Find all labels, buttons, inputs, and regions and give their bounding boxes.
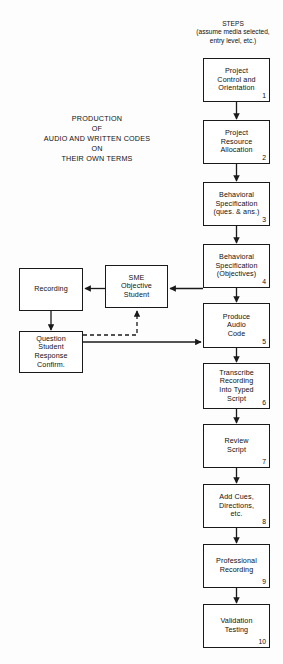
node-label-step-4: Behavioral Specification (Objectives) bbox=[213, 253, 259, 279]
node-step-1: Project Control and Orientation1 bbox=[203, 58, 270, 102]
node-number-step-6: 6 bbox=[262, 399, 266, 407]
node-label-question-student: Question Student Response Confirm. bbox=[32, 335, 69, 369]
node-label-step-6: Transcribe Recording Into Typed Script bbox=[217, 369, 256, 403]
node-number-step-9: 9 bbox=[262, 578, 266, 586]
node-number-step-8: 8 bbox=[262, 518, 266, 526]
node-number-step-2: 2 bbox=[262, 154, 266, 162]
node-step-5: Produce Audio Code5 bbox=[203, 303, 270, 348]
node-step-8: Add Cues, Directions, etc.8 bbox=[203, 484, 270, 528]
connector-question-to-sme-dashed bbox=[83, 311, 137, 335]
node-label-sme: SME Objective Student bbox=[119, 274, 154, 300]
node-step-10: Validation Testing10 bbox=[203, 604, 270, 648]
node-step-6: Transcribe Recording Into Typed Script6 bbox=[203, 363, 270, 409]
node-recording: Recording bbox=[19, 268, 83, 311]
node-step-9: Professional Recording9 bbox=[203, 544, 270, 588]
node-label-step-10: Validation Testing bbox=[218, 617, 254, 634]
node-number-step-10: 10 bbox=[258, 638, 266, 646]
flowchart-page: STEPS (assume media selected, entry leve… bbox=[0, 0, 283, 664]
steps-heading: STEPS (assume media selected, entry leve… bbox=[183, 20, 283, 45]
node-label-step-7: Review Script bbox=[222, 437, 250, 454]
node-label-step-2: Project Resource Allocation bbox=[218, 129, 254, 155]
node-number-step-4: 4 bbox=[262, 278, 266, 286]
node-label-step-1: Project Control and Orientation bbox=[215, 67, 257, 93]
node-step-7: Review Script7 bbox=[203, 424, 270, 468]
node-step-3: Behavioral Specification (ques. & ans.)3 bbox=[203, 182, 270, 226]
node-step-2: Project Resource Allocation2 bbox=[203, 120, 270, 164]
node-label-step-8: Add Cues, Directions, etc. bbox=[217, 493, 256, 519]
node-number-step-7: 7 bbox=[262, 458, 266, 466]
node-number-step-3: 3 bbox=[262, 216, 266, 224]
node-number-step-5: 5 bbox=[262, 338, 266, 346]
node-label-recording: Recording bbox=[32, 285, 70, 294]
node-label-step-3: Behavioral Specification (ques. & ans.) bbox=[211, 191, 261, 217]
node-question-student: Question Student Response Confirm. bbox=[19, 331, 83, 373]
node-label-step-5: Produce Audio Code bbox=[221, 313, 252, 339]
node-number-step-1: 1 bbox=[262, 92, 266, 100]
node-label-step-9: Professional Recording bbox=[214, 557, 259, 574]
node-step-4: Behavioral Specification (Objectives)4 bbox=[203, 244, 270, 288]
production-title: PRODUCTION OF AUDIO AND WRITTEN CODES ON… bbox=[12, 114, 182, 164]
node-sme: SME Objective Student bbox=[105, 265, 168, 308]
